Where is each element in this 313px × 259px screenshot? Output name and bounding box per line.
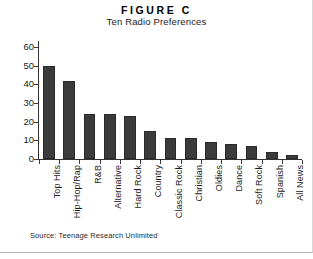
bar: [246, 146, 258, 159]
bar: [104, 114, 116, 159]
bar: [84, 114, 96, 159]
bar: [43, 66, 55, 159]
bar: [185, 138, 197, 159]
x-axis-tick-mark: [282, 160, 283, 164]
x-axis-tick-mark: [302, 160, 303, 164]
x-axis-category-label: Oldies: [215, 165, 224, 191]
bar: [286, 155, 298, 159]
x-axis-tick-mark: [120, 160, 121, 164]
x-axis-tick-mark: [221, 160, 222, 164]
bar: [165, 138, 177, 159]
source-note: Source: Teenage Research Unlimited: [30, 231, 158, 240]
x-axis-category-label: Hard Rock: [134, 165, 143, 208]
x-axis-tick-mark: [181, 160, 182, 164]
x-axis-tick-mark: [100, 160, 101, 164]
x-axis-category-label: Country: [154, 165, 163, 197]
bar: [266, 152, 278, 159]
x-axis-tick-mark: [59, 160, 60, 164]
x-axis-category-label: Dance: [235, 165, 244, 192]
x-axis-category-label: R&B: [94, 165, 103, 184]
bar: [63, 81, 75, 159]
y-axis-labels: 0102030405060: [14, 0, 34, 259]
figure-container: FIGURE C Ten Radio Preferences 010203040…: [0, 0, 313, 259]
x-axis-tick-mark: [79, 160, 80, 164]
y-axis-tick-label: 50: [14, 61, 34, 71]
y-axis-tick-label: 0: [14, 154, 34, 164]
x-axis-category-label: Classic Rock: [175, 165, 184, 218]
x-axis-tick-mark: [241, 160, 242, 164]
x-axis-category-label: Hip-Hop/Rap: [73, 165, 82, 218]
x-axis-category-label: Alternative: [114, 165, 123, 209]
bar: [124, 116, 136, 159]
y-axis-tick-label: 10: [14, 135, 34, 145]
x-axis-tick-mark: [262, 160, 263, 164]
x-axis-category-label: All News: [296, 165, 305, 201]
plot-area: 0102030405060 Top HitsHip-Hop/RapR&BAlte…: [0, 0, 313, 259]
x-axis-tick-mark: [201, 160, 202, 164]
x-axis-category-label: Spanish: [276, 165, 285, 198]
bar: [225, 144, 237, 159]
y-axis-tick-label: 40: [14, 79, 34, 89]
bar: [144, 131, 156, 159]
bars-layer: [39, 0, 302, 259]
x-axis-tick-mark: [39, 160, 40, 164]
x-axis-category-label: Top Hits: [53, 165, 62, 198]
x-axis-tick-mark: [140, 160, 141, 164]
x-axis-category-label: Soft Rock: [255, 165, 264, 205]
x-axis-tick-mark: [160, 160, 161, 164]
x-axis-category-label: Christian: [195, 165, 204, 201]
y-axis-tick-label: 20: [14, 117, 34, 127]
bar: [205, 142, 217, 159]
y-axis-tick-label: 30: [14, 98, 34, 108]
y-axis-tick-label: 60: [14, 42, 34, 52]
